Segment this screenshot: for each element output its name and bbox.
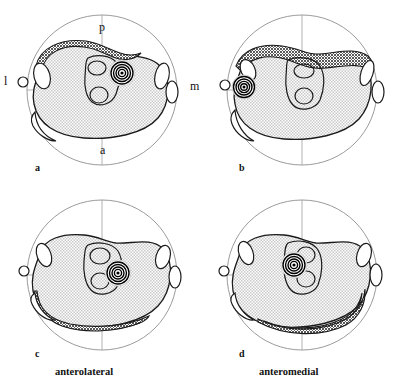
concentric-target-marker xyxy=(281,252,307,278)
body-outline xyxy=(33,44,168,139)
lateral-open-circle xyxy=(219,266,229,276)
axis-label-medial: m xyxy=(190,79,199,94)
medial-nodule xyxy=(372,81,384,103)
panel-c-caption: anterolateral xyxy=(55,366,113,377)
lateral-open-circle xyxy=(19,266,29,276)
concentric-target-marker xyxy=(105,260,131,286)
lateral-open-circle xyxy=(220,80,230,90)
panel-label-d: d xyxy=(239,348,245,359)
panel-a: p a l m a xyxy=(0,0,202,193)
panel-d-drawing xyxy=(202,193,405,385)
panel-b: b xyxy=(202,0,405,193)
panel-label-c: c xyxy=(35,348,39,359)
lateral-open-circle xyxy=(18,77,28,87)
panel-d: d anteromedial xyxy=(202,193,405,385)
axis-label-anterior: a xyxy=(100,143,105,158)
axis-label-posterior: p xyxy=(99,20,105,35)
panel-c: c anterolateral xyxy=(0,193,202,385)
panel-label-a: a xyxy=(35,162,40,173)
concentric-target-marker xyxy=(232,75,256,99)
medial-nodule xyxy=(370,264,382,286)
figure-grid: p a l m a xyxy=(0,0,405,385)
panel-d-caption: anteromedial xyxy=(259,366,318,377)
concentric-target-marker xyxy=(109,60,135,86)
panel-label-b: b xyxy=(239,162,245,173)
medial-nodule xyxy=(166,81,178,103)
panel-c-drawing xyxy=(0,193,202,385)
panel-b-drawing xyxy=(202,0,405,193)
medial-nodule xyxy=(169,266,181,288)
axis-label-lateral: l xyxy=(4,74,7,89)
